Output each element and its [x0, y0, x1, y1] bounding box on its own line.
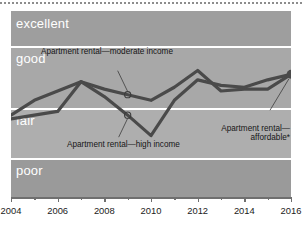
x-axis — [11, 197, 291, 203]
x-tick-major — [104, 197, 105, 202]
x-axis-tick-label: 2010 — [141, 205, 162, 216]
x-tick-minor — [34, 197, 35, 200]
x-tick-major — [151, 197, 152, 202]
x-axis-tick-label: 2012 — [187, 205, 208, 216]
x-axis-tick-label: 2008 — [94, 205, 115, 216]
x-axis-tick-label: 2004 — [1, 205, 22, 216]
x-tick-major — [291, 197, 292, 202]
series-lines — [11, 11, 291, 197]
top-dotted-rule — [0, 2, 302, 4]
x-tick-major — [58, 197, 59, 202]
annotation-affordable: Apartment rental—affordable* — [204, 124, 290, 143]
x-tick-major — [198, 197, 199, 202]
x-tick-major — [11, 197, 12, 202]
annotation-moderate-income: Apartment rental—moderate income — [41, 47, 173, 56]
x-axis-labels: 2004200620082010201220142016 — [11, 205, 291, 221]
x-tick-major — [244, 197, 245, 202]
x-axis-tick-label: 2006 — [47, 205, 68, 216]
line-moderate-income — [11, 71, 291, 116]
x-tick-minor — [174, 197, 175, 200]
x-tick-minor — [221, 197, 222, 200]
annotation-high-income: Apartment rental—high income — [67, 140, 180, 149]
x-tick-minor — [128, 197, 129, 200]
plot-area: excellent good fair poor Apartment renta… — [11, 11, 291, 197]
x-tick-minor — [268, 197, 269, 200]
leader-line-moderate — [118, 71, 128, 92]
leader-line-high — [119, 118, 128, 137]
x-axis-tick-label: 2016 — [281, 205, 302, 216]
chart-figure: excellent good fair poor Apartment renta… — [0, 0, 302, 230]
x-axis-tick-label: 2014 — [234, 205, 255, 216]
x-tick-minor — [81, 197, 82, 200]
